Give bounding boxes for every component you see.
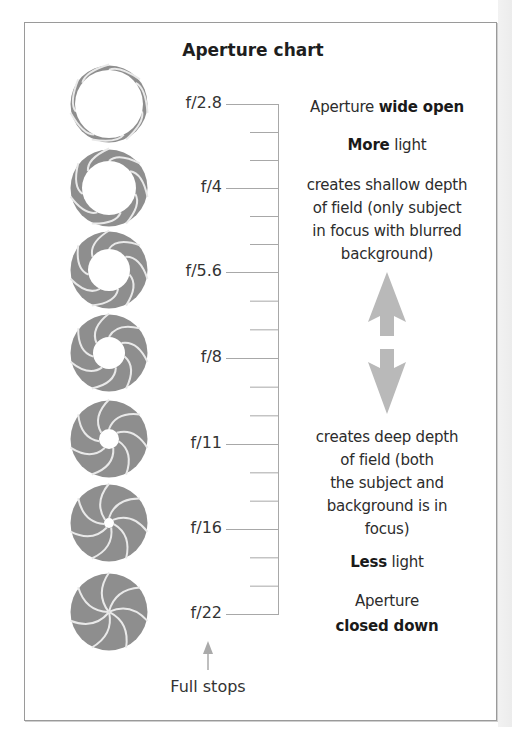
more-light-label: More light <box>282 134 492 157</box>
down-arrow-icon <box>368 349 406 414</box>
shallow-dof-description: creates shallow depth of field (only sub… <box>282 174 492 266</box>
aperture-icon <box>71 573 148 651</box>
aperture-icon <box>71 314 148 392</box>
wide-open-label: Aperture wide open <box>282 96 492 119</box>
full-stops-arrow-icon <box>203 641 213 670</box>
full-stops-label: Full stops <box>150 677 266 696</box>
closed-down-prefix: Aperture <box>282 590 492 613</box>
shallow-dof-line: creates shallow depth <box>282 174 492 197</box>
f-stop-label: f/22 <box>152 604 222 622</box>
deep-dof-line: of field (both <box>282 449 492 472</box>
aperture-icon <box>71 231 148 309</box>
wide-open-prefix: Aperture <box>310 98 379 116</box>
aperture-icon <box>71 484 148 562</box>
shallow-dof-line: of field (only subject <box>282 197 492 220</box>
deep-dof-line: creates deep depth <box>282 426 492 449</box>
f-stop-label: f/8 <box>152 348 222 366</box>
deep-dof-line: the subject and <box>282 472 492 495</box>
aperture-icon <box>71 400 148 478</box>
aperture-icon <box>71 149 148 227</box>
more-emphasis: More <box>348 136 390 154</box>
aperture-icons <box>71 65 148 651</box>
deep-dof-line: focus) <box>282 518 492 541</box>
less-emphasis: Less <box>350 553 387 571</box>
closed-down-label: Aperture closed down <box>282 590 492 638</box>
aperture-icon <box>71 65 148 143</box>
deep-dof-description: creates deep depth of field (both the su… <box>282 426 492 541</box>
f-stop-label: f/16 <box>152 519 222 537</box>
wide-open-emphasis: wide open <box>379 98 464 116</box>
up-arrow-icon <box>368 272 406 336</box>
stop-ladder <box>226 104 279 615</box>
shallow-dof-line: background) <box>282 243 492 266</box>
f-stop-label: f/11 <box>152 434 222 452</box>
f-stop-label: f/2.8 <box>152 94 222 112</box>
more-light-suffix: light <box>390 136 427 154</box>
less-light-suffix: light <box>387 553 424 571</box>
f-stop-label: f/4 <box>152 178 222 196</box>
deep-dof-line: background is in <box>282 495 492 518</box>
shallow-dof-line: in focus with blurred <box>282 220 492 243</box>
closed-down-emphasis: closed down <box>336 617 439 635</box>
less-light-label: Less light <box>282 551 492 574</box>
f-stop-label: f/5.6 <box>152 262 222 280</box>
